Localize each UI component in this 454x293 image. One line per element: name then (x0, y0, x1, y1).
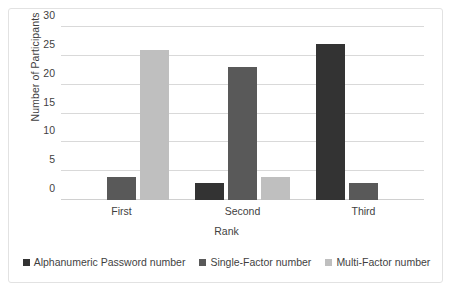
legend-label: Single-Factor number (210, 256, 311, 268)
y-axis-title: Number of Participants (29, 0, 41, 147)
legend-item[interactable]: Alphanumeric Password number (23, 256, 186, 268)
legend-item[interactable]: Single-Factor number (199, 256, 311, 268)
x-tick-label-third: Third (352, 205, 376, 217)
bar (316, 44, 345, 200)
legend-label: Multi-Factor number (336, 256, 430, 268)
legend-swatch-icon (199, 259, 206, 266)
y-tick-label-10: 10 (43, 124, 55, 136)
bar (349, 183, 378, 200)
bar (228, 67, 257, 200)
y-tick-label-0: 0 (49, 182, 55, 194)
y-tick-label-5: 5 (49, 153, 55, 165)
legend-swatch-icon (325, 259, 332, 266)
bar (195, 183, 224, 200)
bar (107, 177, 136, 200)
x-tick-label-second: Second (225, 205, 261, 217)
bar-series-container (61, 27, 424, 200)
x-tick-label-first: First (111, 205, 131, 217)
legend-label: Alphanumeric Password number (34, 256, 186, 268)
bar (140, 50, 169, 200)
y-tick-label-20: 20 (43, 67, 55, 79)
chart-frame: Number of Participants 051015202530 Firs… (8, 8, 443, 283)
legend-item[interactable]: Multi-Factor number (325, 256, 430, 268)
bar (261, 177, 290, 200)
y-tick-label-25: 25 (43, 38, 55, 50)
x-axis-title: Rank (9, 225, 444, 237)
legend-swatch-icon (23, 259, 30, 266)
legend: Alphanumeric Password numberSingle-Facto… (9, 256, 444, 268)
plot-area: 051015202530 FirstSecondThird (61, 27, 424, 200)
y-tick-label-30: 30 (43, 9, 55, 21)
y-tick-label-15: 15 (43, 96, 55, 108)
